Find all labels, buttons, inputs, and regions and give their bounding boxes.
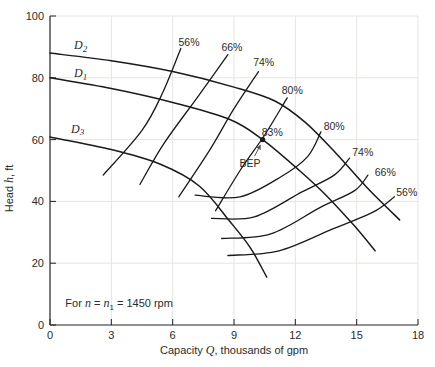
- chart-canvas: 0369121518020406080100Capacity Q, thousa…: [0, 0, 435, 367]
- y-tick-label-80: 80: [32, 72, 44, 84]
- efficiency-label-80-right: 80%: [324, 120, 345, 132]
- efficiency-label-56-right: 56%: [396, 186, 417, 198]
- efficiency-curve-74-right: [212, 158, 350, 219]
- y-tick-label-60: 60: [32, 134, 44, 146]
- bep-label: BEP: [239, 157, 260, 169]
- pump-curve-label-D1: D1: [73, 66, 87, 82]
- y-tick-label-0: 0: [38, 319, 44, 331]
- pump-curve-D1: [50, 78, 375, 251]
- y-tick-label-100: 100: [26, 10, 44, 22]
- x-tick-label-12: 12: [289, 329, 301, 341]
- y-tick-label-20: 20: [32, 257, 44, 269]
- efficiency-label-56-top: 56%: [179, 36, 200, 48]
- pump-curve-label-D2: D2: [73, 38, 88, 54]
- efficiency-label-80-top: 80%: [282, 84, 303, 96]
- x-tick-label-0: 0: [47, 329, 53, 341]
- x-tick-label-9: 9: [231, 329, 237, 341]
- efficiency-curve-56-right: [228, 197, 395, 256]
- y-tick-label-40: 40: [32, 195, 44, 207]
- x-tick-label-6: 6: [170, 329, 176, 341]
- x-tick-label-18: 18: [412, 329, 424, 341]
- y-axis-title: Head h, ft: [2, 165, 16, 213]
- efficiency-label-66-right: 66%: [375, 166, 396, 178]
- x-axis-title: Capacity Q, thousands of gpm: [160, 343, 308, 357]
- rpm-annotation: For n = n1​ = 1450 rpm: [65, 296, 173, 312]
- x-tick-label-15: 15: [351, 329, 363, 341]
- efficiency-label-66-top: 66%: [221, 41, 242, 53]
- pump-curve-label-D3: D3: [70, 122, 85, 138]
- efficiency-curve-56-top: [103, 48, 181, 175]
- x-tick-label-3: 3: [108, 329, 114, 341]
- efficiency-curve-80-top: [216, 98, 288, 211]
- bep-value-label: 83%: [262, 126, 283, 138]
- efficiency-label-74-right: 74%: [352, 146, 373, 158]
- pump-performance-chart: 0369121518020406080100Capacity Q, thousa…: [0, 0, 435, 367]
- efficiency-curve-66-right: [222, 175, 368, 238]
- efficiency-label-74-top: 74%: [253, 56, 274, 68]
